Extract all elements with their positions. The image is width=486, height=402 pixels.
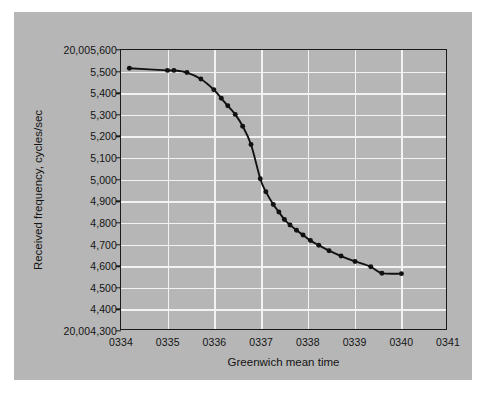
data-point-marker bbox=[353, 259, 358, 264]
data-point-marker bbox=[316, 243, 321, 248]
x-tick-label: 0340 bbox=[389, 336, 413, 348]
data-point-marker bbox=[211, 87, 216, 92]
data-point-marker bbox=[258, 176, 263, 181]
data-point-marker bbox=[271, 202, 276, 207]
y-tick-label: 5,000 bbox=[90, 174, 121, 186]
y-tick-label: 4,900 bbox=[90, 195, 121, 207]
data-point-marker bbox=[240, 124, 245, 129]
y-tick-label: 5,200 bbox=[90, 130, 121, 142]
data-point-marker bbox=[165, 68, 170, 73]
data-point-marker bbox=[184, 70, 189, 75]
y-tick-label: 4,800 bbox=[90, 217, 121, 229]
y-axis-title-text: Received frequency, cycles/sec bbox=[32, 109, 44, 269]
figure-panel: Received frequency, cycles/sec 20,005,60… bbox=[14, 12, 472, 380]
y-tick-label: 4,500 bbox=[90, 282, 121, 294]
y-tick-label: 5,300 bbox=[90, 109, 121, 121]
y-axis-title: Received frequency, cycles/sec bbox=[28, 49, 48, 330]
y-tick-label: 20,005,600 bbox=[63, 44, 121, 56]
data-point-marker bbox=[249, 142, 254, 147]
x-tick-label: 0339 bbox=[343, 336, 367, 348]
data-point-marker bbox=[233, 112, 238, 117]
y-tick-label: 5,500 bbox=[90, 66, 121, 78]
data-point-marker bbox=[225, 103, 230, 108]
data-point-marker bbox=[276, 210, 281, 215]
data-point-marker bbox=[127, 66, 132, 71]
data-point-marker bbox=[263, 189, 268, 194]
data-point-marker bbox=[327, 248, 332, 253]
y-tick-label: 4,700 bbox=[90, 239, 121, 251]
y-tick-label: 5,400 bbox=[90, 87, 121, 99]
data-point-marker bbox=[308, 238, 313, 243]
x-tick-label: 0341 bbox=[436, 336, 460, 348]
x-axis-title-text: Greenwich mean time bbox=[228, 356, 340, 368]
curve-path bbox=[129, 68, 401, 274]
data-point-marker bbox=[368, 264, 373, 269]
data-point-marker bbox=[288, 222, 293, 227]
data-point-marker bbox=[198, 76, 203, 81]
data-point-marker bbox=[282, 217, 287, 222]
data-point-marker bbox=[379, 271, 384, 276]
data-point-marker bbox=[171, 68, 176, 73]
x-tick-label: 0337 bbox=[249, 336, 273, 348]
data-point-marker bbox=[294, 228, 299, 233]
x-tick-label: 0338 bbox=[296, 336, 320, 348]
plot-area: 20,005,6005,5005,4005,3005,2005,1005,000… bbox=[120, 49, 447, 330]
y-tick-label: 4,600 bbox=[90, 260, 121, 272]
data-point-marker bbox=[301, 233, 306, 238]
x-axis-title: Greenwich mean time bbox=[120, 356, 447, 368]
x-tick-label: 0335 bbox=[156, 336, 180, 348]
data-point-marker bbox=[219, 96, 224, 101]
data-point-marker bbox=[399, 271, 404, 276]
data-point-marker bbox=[339, 254, 344, 259]
data-series-doppler-curve bbox=[121, 50, 446, 329]
x-tick-label: 0336 bbox=[203, 336, 227, 348]
y-tick-label: 4,400 bbox=[90, 303, 121, 315]
x-tick-label: 0334 bbox=[109, 336, 133, 348]
y-tick-label: 5,100 bbox=[90, 152, 121, 164]
